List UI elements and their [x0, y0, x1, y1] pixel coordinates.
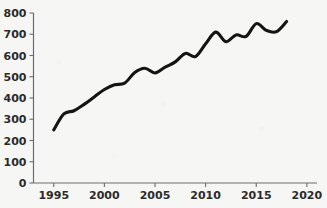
- x-axis-tick-label: 2015: [241, 189, 272, 202]
- x-axis-tick-label: 1995: [38, 189, 69, 202]
- y-axis-tick-label: 300: [4, 113, 27, 126]
- x-axis-tick-label: 2020: [292, 189, 323, 202]
- line-chart: 0100200300400500600700800 19952000200520…: [0, 0, 327, 208]
- x-axis-tick-label: 2010: [190, 189, 221, 202]
- series-line-1: [54, 22, 287, 130]
- y-axis-tick-label: 100: [4, 156, 27, 169]
- data-series-group: [54, 22, 287, 130]
- y-axis: 0100200300400500600700800: [4, 7, 34, 190]
- y-axis-tick-label: 400: [4, 92, 27, 105]
- y-axis-tick-label: 200: [4, 135, 27, 148]
- chart-canvas: 0100200300400500600700800 19952000200520…: [0, 0, 327, 208]
- y-axis-tick-label: 700: [4, 28, 27, 41]
- x-axis: 199520002005201020152020: [34, 183, 323, 202]
- y-axis-tick-label: 500: [4, 71, 27, 84]
- x-axis-tick-label: 2000: [89, 189, 120, 202]
- y-axis-tick-label: 0: [19, 177, 27, 190]
- x-axis-tick-label: 2005: [140, 189, 171, 202]
- y-axis-tick-label: 800: [4, 7, 27, 20]
- y-axis-tick-label: 600: [4, 50, 27, 63]
